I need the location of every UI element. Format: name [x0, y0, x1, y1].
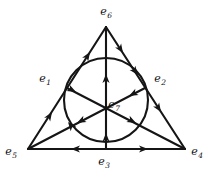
- fano-plane-figure: e6 e1 e2 e7 e5 e4 e3: [0, 0, 216, 173]
- label-e5: e5: [5, 146, 16, 157]
- label-e2: e2: [154, 73, 165, 84]
- label-e6: e6: [100, 6, 111, 17]
- label-e1: e1: [39, 73, 50, 84]
- label-e3: e3: [98, 156, 109, 167]
- label-e4: e4: [191, 146, 202, 157]
- label-e7: e7: [108, 99, 119, 110]
- arrowhead-e2e5-upper: [127, 89, 138, 100]
- fano-plane-canvas: [0, 0, 216, 173]
- cevian-lines: [28, 27, 185, 149]
- arrowheads: [44, 43, 164, 152]
